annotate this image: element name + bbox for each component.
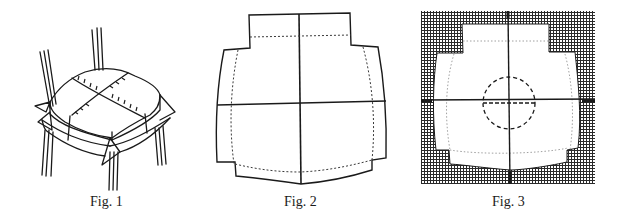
figure-3: Fig. 3: [400, 0, 626, 223]
figure-1: Fig. 1: [0, 0, 200, 223]
chair-cushion-illustration: [0, 0, 200, 223]
figure-1-caption: Fig. 1: [90, 194, 123, 210]
cushion-pattern-flat: [200, 0, 400, 223]
pattern-on-grid: [400, 0, 626, 223]
figure-3-caption: Fig. 3: [492, 194, 525, 210]
figure-2: Fig. 2: [200, 0, 400, 223]
figure-2-caption: Fig. 2: [284, 194, 317, 210]
